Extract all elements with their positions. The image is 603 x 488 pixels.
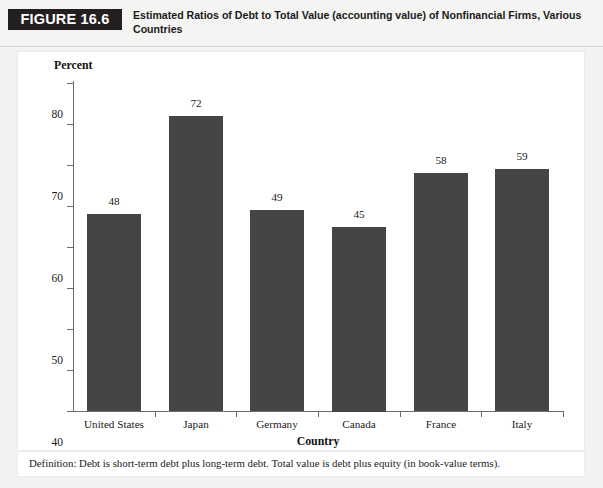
y-tick-50: 50 [67,206,73,207]
y-tick-60: 60 [67,165,73,166]
figure-number-badge: FIGURE 16.6 [8,9,122,30]
x-category-label-canada: Canada [318,418,400,430]
bar-italy[interactable] [495,169,549,411]
y-axis-line [73,81,74,412]
y-tick-10: 10 [67,370,73,371]
y-tick-label-80: 80 [23,114,63,115]
bar-united-states[interactable] [87,214,141,411]
x-category-label-united-states: United States [73,418,155,430]
x-category-label-france: France [400,418,482,430]
y-tick-70: 70 [67,124,73,125]
x-tick-1 [155,411,156,417]
figure-page: FIGURE 16.6 Estimated Ratios of Debt to … [0,0,603,488]
y-tick-label-70: 70 [23,196,63,197]
bar-value-canada: 45 [329,208,389,220]
y-tick-30: 30 [67,288,73,289]
bar-value-japan: 72 [166,97,226,109]
y-tick-label-50: 50 [23,360,63,361]
y-tick-0: 0 [67,411,73,412]
x-tick-5 [481,411,482,417]
bar-value-france: 58 [411,154,471,166]
footnote-text: Definition: Debt is short-term debt plus… [29,457,500,469]
bar-value-italy: 59 [492,150,552,162]
x-tick-2 [236,411,237,417]
footnote-box: Definition: Debt is short-term debt plus… [18,452,584,476]
y-tick-label-60: 60 [23,278,63,279]
figure-header: FIGURE 16.6 Estimated Ratios of Debt to … [0,0,603,48]
figure-title: Estimated Ratios of Debt to Total Value … [133,8,595,36]
y-tick-label-40: 40 [23,442,63,443]
x-tick-3 [318,411,319,417]
bar-japan[interactable] [169,116,223,411]
header-divider [0,46,603,47]
y-axis-title: Percent [54,58,92,73]
bar-value-united-states: 48 [84,195,144,207]
x-tick-6 [563,411,564,417]
bar-canada[interactable] [332,227,386,412]
y-tick-80: 80 [67,83,73,84]
y-tick-40: 40 [67,247,73,248]
x-category-label-japan: Japan [155,418,237,430]
bar-france[interactable] [414,173,468,411]
x-tick-4 [400,411,401,417]
chart-card: Percent 01020304050607080 48United State… [18,52,584,450]
x-axis-title: Country [73,434,563,449]
bar-germany[interactable] [250,210,304,411]
y-tick-20: 20 [67,329,73,330]
x-category-label-italy: Italy [481,418,563,430]
bar-chart-plot: Percent 01020304050607080 48United State… [18,52,584,450]
x-category-label-germany: Germany [236,418,318,430]
bar-value-germany: 49 [247,191,307,203]
